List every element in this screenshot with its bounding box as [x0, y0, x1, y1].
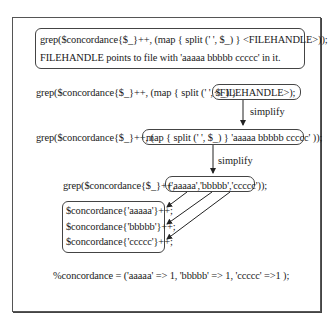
intro-description-line: FILEHANDLE points to file with 'aaaaa bb…	[40, 52, 280, 64]
arrow1-label: simplify	[250, 106, 285, 118]
arrow2-label: simplify	[218, 155, 253, 167]
step3-code-prefix: grep($concordance{$_}++,	[63, 180, 175, 192]
step3-highlight-text: ('aaaaa','bbbbb','ccccc'));	[168, 180, 267, 192]
result-hash: %concordance = ('aaaaa' => 1, 'bbbbb' =>…	[53, 270, 289, 282]
step1-highlight-text: <FILEHANDLE>);	[214, 87, 295, 99]
expansion-item: $concordance{'ccccc'}++;	[66, 236, 173, 248]
expansion-item: $concordance{'aaaaa'}++;	[66, 205, 173, 217]
step1-code-prefix: grep($concordance{$_}++, (map { split ('…	[36, 87, 236, 99]
expansion-item: $concordance{'bbbbb'}++;	[66, 221, 176, 233]
intro-code-line: grep($concordance{$_}++, (map { split ('…	[40, 34, 328, 46]
step2-highlight-text: map { split (' ', $_) } 'aaaaa bbbbb ccc…	[146, 132, 322, 144]
step2-code-prefix: grep($concordance{$_}++, (	[36, 132, 154, 144]
